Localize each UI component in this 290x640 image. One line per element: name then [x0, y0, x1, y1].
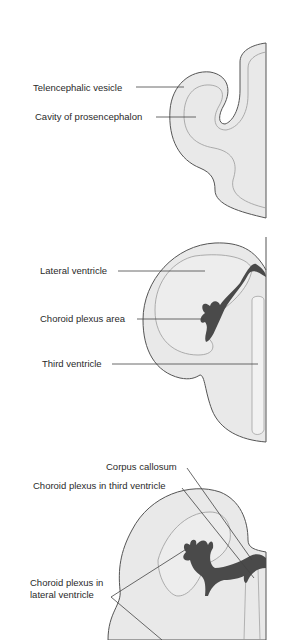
label-choroid-plexus-area: Choroid plexus area — [40, 313, 125, 324]
label-cavity-prosencephalon: Cavity of prosencephalon — [35, 111, 142, 122]
label-third-ventricle: Third ventricle — [42, 358, 102, 369]
label-telencephalic-vesicle: Telencephalic vesicle — [33, 82, 122, 93]
panel-1-vesicle — [170, 43, 266, 218]
label-choroid-plexus-lateral-line1: Choroid plexus in — [30, 577, 103, 588]
panel-2-ventricles — [143, 237, 266, 442]
vesicle-outer-wall — [170, 43, 266, 218]
label-lateral-ventricle: Lateral ventricle — [40, 265, 107, 276]
panel-3-corpus-callosum — [108, 489, 266, 640]
label-choroid-plexus-third-ventricle: Choroid plexus in third ventricle — [33, 480, 166, 491]
label-choroid-plexus-lateral-line2: lateral ventricle — [30, 589, 94, 600]
third-ventricle-outline — [252, 296, 264, 434]
label-corpus-callosum: Corpus callosum — [106, 461, 177, 472]
